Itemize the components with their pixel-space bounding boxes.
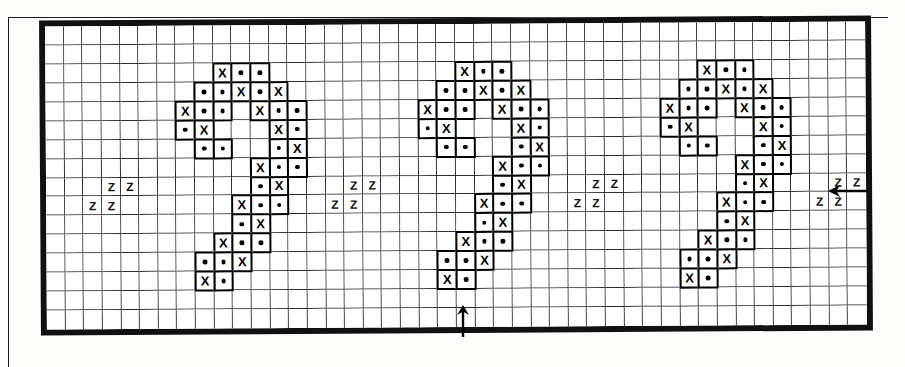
grid-cell [643,288,662,307]
grid-cell [604,42,623,61]
grid-cell [642,80,661,99]
grid-cell [791,173,810,192]
grid-cell [549,175,568,194]
grid-cell [344,157,363,176]
grid-cell [829,230,848,249]
grid-cell [289,290,308,309]
grid-cell [195,215,214,234]
grid-cell [773,192,792,211]
grid-cell [159,291,178,310]
dot-symbol-cell [678,135,699,156]
cross-symbol-cell: X [231,195,252,216]
dot-symbol-cell [753,97,774,118]
grid-cell [792,230,811,249]
dot-symbol-cell [697,97,718,118]
grid-cell [400,176,419,195]
grid-cell [362,100,381,119]
grid-cell [569,288,588,307]
grid-cell [139,139,158,158]
grid-cell [848,287,867,306]
grid-cell [159,310,178,329]
grid-cell [252,309,271,328]
grid-cell [848,306,867,325]
grid-cell [492,24,511,43]
grid-cell [660,61,679,80]
cross-symbol-cell: X [231,81,252,102]
grid-cell [717,268,736,287]
dot-symbol-cell [175,119,196,140]
grid-cell [474,137,493,156]
grid-cell [587,231,606,250]
grid-cell [623,99,642,118]
grid-cell [624,269,643,288]
grid-cell [158,215,177,234]
grid-cell [400,81,419,100]
grid-cell [307,138,326,157]
grid-cell [717,174,736,193]
grid-cell [623,23,642,42]
grid-cell [101,83,120,102]
grid-cell [326,233,345,252]
grid-cell [661,155,680,174]
grid-cell [568,137,587,156]
grid-cell [47,292,66,311]
grid-cell [606,250,625,269]
grid-cell [140,291,159,310]
dot-symbol-cell [213,252,234,273]
grid-cell [83,64,102,83]
grid-cell [661,136,680,155]
grid-cell [567,80,586,99]
dot-symbol-cell [529,155,550,176]
grid-cell [344,100,363,119]
dot-symbol-cell [268,100,289,121]
grid-cell [325,25,344,44]
grid-cell [548,23,567,42]
cross-symbol-cell: X [269,176,290,197]
grid-cell [139,83,158,102]
grid-cell [494,251,513,270]
grid-cell [809,60,828,79]
grid-cell [791,98,810,117]
grid-cell [307,214,326,233]
grid-cell [604,61,623,80]
grid-cell [531,307,550,326]
grid-cell [699,306,718,325]
grid-cell [828,78,847,97]
grid-cell [289,252,308,271]
grid-cell [65,178,84,197]
dot-symbol-cell [250,195,271,216]
grid-cell [736,306,755,325]
grid-cell [717,117,736,136]
grid-cell [289,214,308,233]
grid-cell [419,251,438,270]
grid-cell [400,233,419,252]
grid-cell [680,307,699,326]
grid-cell [400,214,419,233]
grid-cell [455,24,474,43]
grid-cell [233,309,252,328]
grid-cell [213,25,232,44]
grid-cell [828,59,847,78]
grid-cell [586,156,605,175]
grid-cell [364,290,383,309]
grid-cell [530,23,549,42]
grid-cell [437,176,456,195]
grid-cell [158,272,177,291]
grid-cell [455,43,474,62]
grid-cell [177,234,196,253]
dot-symbol-cell [716,230,737,251]
cross-symbol-cell: X [734,154,755,175]
grid-cell [381,43,400,62]
grid-cell [773,230,792,249]
grid-cell [381,138,400,157]
cross-symbol-cell: X [716,192,737,213]
grid-cell [605,156,624,175]
grid-cell [177,196,196,215]
grid-cell [456,194,475,213]
grid-cell [810,116,829,135]
grid-cell [791,41,810,60]
grid-cell [847,135,866,154]
grid-cell [83,121,102,140]
grid-cell [569,307,588,326]
grid-cell [493,118,512,137]
